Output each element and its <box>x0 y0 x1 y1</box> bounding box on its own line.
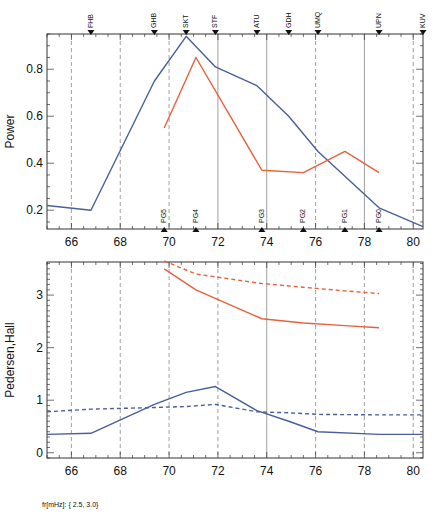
y-tick-label: 1 <box>36 393 43 407</box>
series-line <box>47 387 423 435</box>
x-tick-label: 70 <box>162 464 176 478</box>
station-marker-label: FHB <box>87 14 94 28</box>
y-tick-label: 0.2 <box>26 203 43 217</box>
x-tick-label: 72 <box>211 464 225 478</box>
x-tick-label: 66 <box>65 235 79 249</box>
station-marker-label: GHB <box>150 13 157 29</box>
series-line <box>164 57 379 172</box>
y-tick-label: 0.6 <box>26 109 43 123</box>
series-line <box>164 261 379 294</box>
pg-marker-label: PG1 <box>341 209 348 223</box>
frequency-range-label: fr[mHz]: { 2.5, 3.0} <box>42 501 98 508</box>
series-line <box>164 269 379 328</box>
series-line <box>47 36 423 226</box>
station-marker-label: UMQ <box>314 11 322 28</box>
x-tick-label: 72 <box>211 235 225 249</box>
y-axis-title: Power <box>3 114 17 148</box>
x-tick-label: 70 <box>162 235 176 249</box>
chart-canvas: 66687072747678800.20.40.60.8PowerFHBGHBS… <box>0 0 436 518</box>
x-tick-label: 76 <box>309 464 323 478</box>
station-marker-label: SKT <box>182 14 189 28</box>
station-marker-label: KUV <box>419 13 426 28</box>
x-tick-label: 68 <box>114 235 128 249</box>
x-tick-label: 74 <box>260 464 274 478</box>
x-tick-label: 76 <box>309 235 323 249</box>
power-plot: 66687072747678800.20.40.60.8PowerFHBGHBS… <box>3 11 427 249</box>
plot-frame <box>47 34 423 229</box>
x-tick-label: 66 <box>65 464 79 478</box>
plot-frame <box>47 262 423 458</box>
series-line <box>47 404 423 415</box>
y-tick-label: 2 <box>36 341 43 355</box>
y-tick-label: 0 <box>36 446 43 460</box>
pg-marker-label: PG2 <box>299 209 306 223</box>
x-tick-label: 74 <box>260 235 274 249</box>
station-marker-label: GDH <box>285 12 292 28</box>
y-tick-label: 0.8 <box>26 62 43 76</box>
x-tick-label: 80 <box>407 235 421 249</box>
x-tick-label: 78 <box>358 464 372 478</box>
pedersen-hall-plot: 66687072747678800123Pedersen,Hall <box>3 261 423 478</box>
y-tick-label: 0.4 <box>26 156 43 170</box>
y-tick-label: 3 <box>36 288 43 302</box>
x-tick-label: 80 <box>407 464 421 478</box>
station-marker-label: STF <box>211 15 218 28</box>
x-tick-label: 68 <box>114 464 128 478</box>
pg-marker-label: PG4 <box>192 209 199 223</box>
pg-marker-label: PG5 <box>160 209 167 223</box>
x-tick-label: 78 <box>358 235 372 249</box>
pg-marker-label: PG0 <box>375 209 382 223</box>
station-marker-label: UPN <box>375 13 382 28</box>
y-axis-title: Pedersen,Hall <box>3 322 17 397</box>
pg-marker-label: PG3 <box>258 209 265 223</box>
station-marker-label: ATU <box>253 15 260 28</box>
